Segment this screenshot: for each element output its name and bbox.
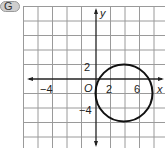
x-tick-6: 6 <box>134 83 140 95</box>
x-tick-neg4: −4 <box>40 83 53 95</box>
y-tick-neg4: −4 <box>79 104 92 116</box>
x-axis-label: x <box>156 83 163 95</box>
y-axis-label: y <box>99 7 107 19</box>
grid-lines <box>23 6 165 148</box>
y-tick-2: 2 <box>84 61 90 73</box>
axes <box>29 10 162 145</box>
coordinate-grid: y x O −4 2 6 2 −4 <box>0 0 165 148</box>
origin-label: O <box>84 82 93 94</box>
x-tick-2: 2 <box>106 83 112 95</box>
